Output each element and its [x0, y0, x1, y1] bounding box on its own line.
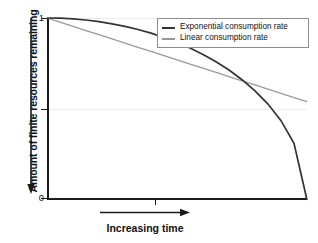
legend-label-linear: Linear consumption rate — [180, 34, 268, 42]
y-tick-label-1: 1 — [39, 13, 44, 23]
x-axis-title: Increasing time — [47, 222, 243, 234]
x-axis-direction-arrow-icon — [100, 207, 190, 218]
legend-item-linear: Linear consumption rate — [162, 33, 303, 44]
legend-item-exponential: Exponential consumption rate — [162, 22, 303, 33]
y-axis-direction-arrow-icon — [25, 18, 37, 194]
legend-label-exponential: Exponential consumption rate — [180, 23, 288, 31]
y-tick-label-0: 0 — [39, 193, 44, 203]
chart-figure: Amount of finite resources remaining 1 0… — [0, 0, 318, 243]
legend-swatch-linear — [162, 38, 175, 40]
legend: Exponential consumption rate Linear cons… — [157, 18, 309, 48]
legend-swatch-exponential — [162, 27, 175, 29]
